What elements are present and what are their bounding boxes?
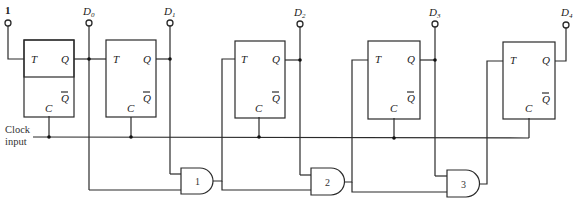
- pin-q: Q: [407, 53, 415, 65]
- counter-circuit-diagram: 1 Clock input T Q Q C T Q Q C T Q Q C: [0, 0, 576, 214]
- and-gate-3-label: 3: [461, 179, 466, 190]
- clock-bus: Clock input: [5, 124, 529, 147]
- pin-q: Q: [542, 54, 550, 66]
- output-d1-label: D1: [163, 5, 175, 19]
- output-d1: D1: [156, 5, 181, 174]
- output-d4-label: D4: [560, 6, 573, 20]
- pin-c: C: [127, 102, 135, 114]
- pin-c: C: [525, 102, 533, 114]
- flipflop-4: T Q Q C: [510, 54, 550, 138]
- and-gate-3: 3: [447, 61, 503, 197]
- and-gate-1-label: 1: [195, 176, 200, 187]
- output-d4: D4: [555, 6, 573, 61]
- input-one-terminal: 1: [5, 4, 24, 59]
- pin-q: Q: [143, 53, 151, 65]
- pin-qbar: Q: [542, 93, 550, 105]
- clock-label-line1: Clock: [5, 124, 31, 135]
- pin-t: T: [375, 53, 382, 65]
- output-d0-label: D0: [82, 5, 95, 19]
- pin-q: Q: [272, 53, 280, 65]
- pin-t: T: [241, 53, 248, 65]
- flipflop-2: T Q Q C: [241, 53, 280, 139]
- pin-t: T: [113, 53, 120, 65]
- pin-qbar: Q: [61, 92, 69, 104]
- pin-q: Q: [61, 53, 69, 65]
- input-one-label: 1: [5, 4, 11, 16]
- pin-qbar: Q: [143, 92, 151, 104]
- output-d3: D3: [420, 6, 447, 176]
- pin-c: C: [255, 102, 263, 114]
- output-d0: D0: [74, 5, 181, 190]
- pin-qbar: Q: [272, 92, 280, 104]
- flipflop-3: T Q Q C: [375, 53, 415, 140]
- pin-qbar: Q: [407, 92, 415, 104]
- flipflop-0: T Q Q C: [24, 40, 74, 139]
- and-gate-2: 2: [311, 60, 447, 195]
- pin-c: C: [45, 102, 53, 114]
- clock-label-line2: input: [5, 136, 27, 147]
- output-d3-label: D3: [428, 6, 441, 20]
- pin-c: C: [390, 102, 398, 114]
- and-gate-1: 1: [181, 59, 311, 194]
- output-d2-label: D2: [293, 6, 306, 20]
- flipflop-1: T Q Q C: [113, 53, 151, 139]
- pin-t: T: [31, 53, 38, 65]
- pin-t: T: [510, 54, 517, 66]
- output-d2: D2: [285, 6, 311, 175]
- and-gate-2-label: 2: [325, 177, 330, 188]
